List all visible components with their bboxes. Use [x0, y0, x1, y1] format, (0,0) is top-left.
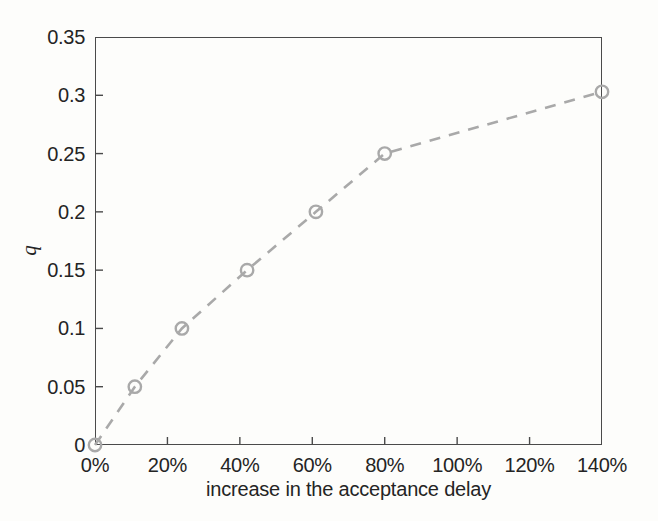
- x-axis-tick-label: 80%: [365, 454, 404, 477]
- x-axis-tick-label: 140%: [577, 454, 627, 477]
- x-axis-title: increase in the acceptance delay: [95, 478, 602, 501]
- y-axis-tick-label: 0.15: [47, 259, 85, 282]
- y-axis-tick-label: 0.05: [47, 375, 85, 398]
- x-axis-tick-label: 120%: [505, 454, 555, 477]
- y-axis-tick-label: 0.35: [47, 26, 85, 49]
- y-axis-tick-label: 0.2: [58, 200, 85, 223]
- x-axis-tick-label: 40%: [220, 454, 259, 477]
- y-axis-tick-label: 0.1: [58, 317, 85, 340]
- y-axis-tick-label: 0.25: [47, 142, 85, 165]
- plot-area: [95, 37, 602, 445]
- x-axis-tick-label: 60%: [293, 454, 332, 477]
- y-axis-tick-label: 0.3: [58, 84, 85, 107]
- chart-figure: 0.350.30.250.20.150.10.050 0%20%40%60%80…: [0, 0, 658, 521]
- x-axis-tick-label: 20%: [148, 454, 187, 477]
- x-axis-tick-label: 0%: [81, 454, 109, 477]
- x-axis-tick-label: 100%: [432, 454, 482, 477]
- y-axis-title: q: [17, 245, 42, 256]
